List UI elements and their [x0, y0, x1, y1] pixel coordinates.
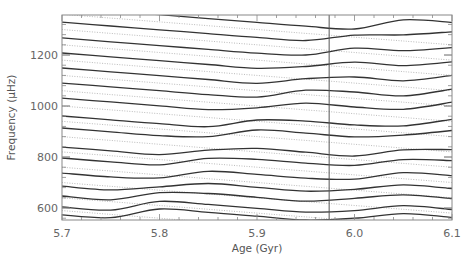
- solid-mode-line: [62, 83, 452, 97]
- y-tick-label: 600: [37, 202, 58, 215]
- solid-mode-line: [62, 128, 452, 137]
- solid-mode-line: [62, 98, 452, 110]
- x-tick-label: 5.8: [151, 227, 169, 240]
- y-tick-label: 1200: [30, 49, 58, 62]
- x-axis-title: Age (Gyr): [232, 242, 283, 254]
- solid-mode-line: [62, 184, 452, 192]
- solid-mode-line: [62, 22, 452, 40]
- x-tick-label: 5.9: [248, 227, 266, 240]
- x-tick-label: 6.1: [443, 227, 461, 240]
- x-tick-label: 6.0: [346, 227, 364, 240]
- frequency-age-chart: 5.75.85.96.06.1 60080010001200 Age (Gyr)…: [0, 0, 468, 265]
- dotted-mode-line: [62, 30, 452, 61]
- solid-mode-line: [62, 201, 452, 212]
- dotted-mode-line: [62, 167, 452, 198]
- dotted-mode-line: [62, 198, 452, 229]
- dotted-mode-line: [62, 45, 452, 76]
- x-tick-labels: 5.75.85.96.06.1: [53, 227, 461, 240]
- x-tick-label: 5.7: [53, 227, 71, 240]
- solid-mode-line: [62, 158, 452, 166]
- plot-area: [62, 7, 452, 241]
- y-tick-labels: 60080010001200: [30, 49, 58, 215]
- y-tick-label: 800: [37, 151, 58, 164]
- y-tick-label: 1000: [30, 100, 58, 113]
- y-axis-title: Frequency (μHz): [5, 75, 17, 161]
